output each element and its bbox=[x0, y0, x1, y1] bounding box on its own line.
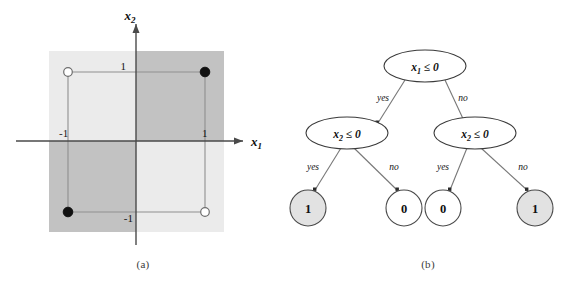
tree-node-left[interactable]: x2 ≤ 0 bbox=[306, 117, 388, 149]
edge-label-root-yes: yes bbox=[376, 93, 389, 103]
edge-label-left-no: no bbox=[389, 162, 399, 172]
tree-leaf-right-no-label: 1 bbox=[532, 202, 538, 216]
point-neg1-neg1-filled bbox=[63, 207, 73, 217]
xor-plot-svg: 1 -1 -1 1 x2 x1 bbox=[0, 0, 286, 255]
panel-b-caption: (b) bbox=[285, 258, 571, 270]
panel-b-decision-tree: yes no yes no yes no x1 ≤ 0 x2 ≤ 0 x2 ≤ … bbox=[285, 0, 571, 293]
tick-label-y-neg: -1 bbox=[124, 212, 133, 224]
tick-label-x-neg: -1 bbox=[59, 127, 68, 139]
tree-leaf-right-no[interactable]: 1 bbox=[517, 190, 553, 226]
point-neg1-pos1-open bbox=[64, 68, 73, 77]
quadrant-upper-right bbox=[136, 51, 224, 141]
x-axis-label-sub: 1 bbox=[258, 141, 263, 151]
y-axis-arrow bbox=[133, 24, 140, 33]
decision-tree-svg: yes no yes no yes no x1 ≤ 0 x2 ≤ 0 x2 ≤ … bbox=[285, 0, 571, 255]
y-axis-label-sub: 2 bbox=[130, 15, 136, 25]
tree-leaf-left-yes[interactable]: 1 bbox=[290, 190, 326, 226]
tree-node-right[interactable]: x2 ≤ 0 bbox=[434, 117, 516, 149]
tree-leaf-left-no[interactable]: 0 bbox=[386, 190, 422, 226]
tick-label-y-pos: 1 bbox=[121, 60, 127, 72]
edge-right-leaf3 bbox=[450, 148, 467, 190]
panel-a-caption: (a) bbox=[0, 258, 286, 270]
edge-label-right-no: no bbox=[518, 162, 528, 172]
edge-label-left-yes: yes bbox=[306, 162, 319, 172]
panel-a-decision-regions: 1 -1 -1 1 x2 x1 (a) bbox=[0, 0, 286, 293]
point-pos1-pos1-filled bbox=[200, 67, 210, 77]
tree-leaf-left-no-label: 0 bbox=[401, 202, 407, 216]
tree-leaf-left-yes-label: 1 bbox=[305, 202, 311, 216]
figure-container: 1 -1 -1 1 x2 x1 (a) bbox=[0, 0, 571, 293]
x-axis-label: x1 bbox=[250, 134, 262, 151]
tree-leaf-right-yes-label: 0 bbox=[440, 202, 446, 216]
y-axis-label: x2 bbox=[124, 8, 137, 25]
tick-label-x-pos: 1 bbox=[202, 127, 208, 139]
tree-leaf-right-yes[interactable]: 0 bbox=[425, 190, 461, 226]
edge-label-right-yes: yes bbox=[436, 162, 449, 172]
x-axis-arrow bbox=[234, 138, 243, 145]
quadrant-lower-right bbox=[136, 141, 224, 232]
tree-node-root[interactable]: x1 ≤ 0 bbox=[384, 50, 466, 82]
edge-label-root-no: no bbox=[458, 93, 468, 103]
point-pos1-neg1-open bbox=[201, 208, 210, 217]
